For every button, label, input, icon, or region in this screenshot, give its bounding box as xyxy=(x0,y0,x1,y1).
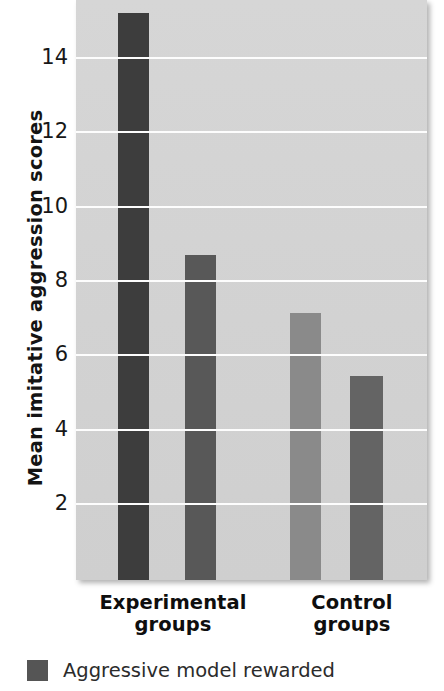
y-tick-label-4: 4 xyxy=(8,419,68,440)
y-tick-label-14: 14 xyxy=(8,47,68,68)
y-tick-label-6: 6 xyxy=(8,344,68,365)
bar-4 xyxy=(350,376,383,580)
category-label-2: Controlgroups xyxy=(272,592,432,636)
y-tick-label-10: 10 xyxy=(8,196,68,217)
plot-area xyxy=(76,0,427,580)
category-label-line: Control xyxy=(272,592,432,614)
legend-label-aggressive-model-rewarded: Aggressive model rewarded xyxy=(63,657,335,685)
category-label-1: Experimentalgroups xyxy=(68,592,278,636)
y-tick-label-12: 12 xyxy=(8,121,68,142)
y-axis-tick-labels: 2468101214 xyxy=(0,0,68,580)
y-tick-label-2: 2 xyxy=(8,493,68,514)
chart-legend: Aggressive model rewarded xyxy=(27,655,437,689)
category-label-line: groups xyxy=(272,614,432,636)
category-label-line: groups xyxy=(68,614,278,636)
legend-swatch-aggressive-model-rewarded xyxy=(27,660,48,681)
category-label-line: Experimental xyxy=(68,592,278,614)
bar-3 xyxy=(290,313,321,580)
y-tick-label-8: 8 xyxy=(8,270,68,291)
bar-chart-figure: Mean imitative aggression scores 2468101… xyxy=(0,0,444,691)
bar-2 xyxy=(185,255,216,580)
bar-1 xyxy=(118,13,149,580)
